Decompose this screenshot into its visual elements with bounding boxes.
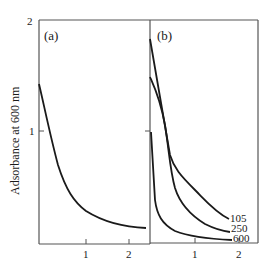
- panel-label-a: (a): [44, 28, 58, 43]
- panel-label-b: (b): [157, 28, 172, 43]
- figure: 2 1 1 2 1 2 Adsorbance at 600 nm (a) (b)…: [0, 0, 273, 269]
- curve-105: [150, 39, 229, 219]
- curve-a: [39, 84, 146, 228]
- y-axis-title: Adsorbance at 600 nm: [8, 86, 22, 195]
- xtick-b-label-2: 2: [236, 248, 242, 260]
- curve-250: [150, 77, 230, 232]
- curve-label-600: 600: [233, 232, 250, 244]
- xtick-b-label-1: 1: [192, 248, 198, 260]
- xtick-a-label-1: 1: [83, 248, 89, 260]
- xtick-a-label-2: 2: [126, 248, 132, 260]
- ytick-label-2: 2: [27, 15, 33, 27]
- ytick-label-1: 1: [29, 125, 35, 137]
- axes-frame: [39, 20, 258, 244]
